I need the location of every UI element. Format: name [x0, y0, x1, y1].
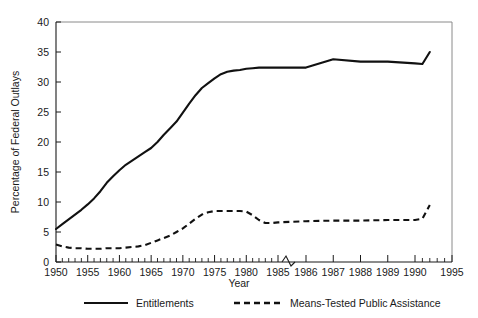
- x-tick-label: 1995: [440, 266, 464, 278]
- x-tick-label: 1970: [171, 266, 195, 278]
- y-tick-label: 30: [37, 76, 49, 88]
- y-tick-label-group: 0510152025303540: [37, 16, 49, 268]
- y-tick-label: 25: [37, 106, 49, 118]
- y-tick-label: 15: [37, 166, 49, 178]
- x-axis-title: Year: [228, 277, 250, 289]
- x-tick-label: 1990: [403, 266, 427, 278]
- y-tick-label: 20: [37, 136, 49, 148]
- legend-label-means-tested: Means-Tested Public Assistance: [290, 297, 441, 309]
- x-tick-label: 1955: [76, 266, 100, 278]
- y-tick-label: 40: [37, 16, 49, 28]
- x-tick-label: 1950: [44, 266, 68, 278]
- x-tick-label: 1960: [108, 266, 132, 278]
- x-tick-label: 1986: [294, 266, 318, 278]
- line-chart: 0510152025303540 19501955196019651970197…: [0, 0, 478, 318]
- axis-break-icon: [282, 256, 295, 266]
- x-tick-label: 1965: [139, 266, 163, 278]
- chart-container: 0510152025303540 19501955196019651970197…: [0, 0, 478, 318]
- legend: Entitlements Means-Tested Public Assista…: [84, 297, 441, 309]
- y-axis-title: Percentage of Federal Outlays: [9, 71, 21, 213]
- x-tick-label: 1985: [266, 266, 290, 278]
- x-tick-label-group: 1950195519601965197019751980198519861987…: [44, 266, 464, 278]
- x-tick-group: [56, 255, 452, 262]
- x-tick-label: 1988: [349, 266, 373, 278]
- series-line-means-tested: [56, 205, 430, 249]
- x-tick-label: 1987: [322, 266, 346, 278]
- y-tick-label: 35: [37, 46, 49, 58]
- x-tick-label: 1989: [376, 266, 400, 278]
- y-tick-label: 10: [37, 196, 49, 208]
- x-tick-label: 1975: [203, 266, 227, 278]
- plot-frame: [56, 22, 452, 262]
- y-tick-label: 5: [43, 226, 49, 238]
- series-line-entitlements: [56, 52, 430, 229]
- legend-label-entitlements: Entitlements: [136, 297, 194, 309]
